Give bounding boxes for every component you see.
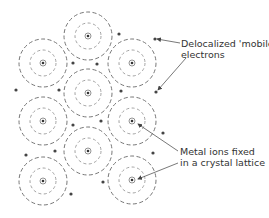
electrons-label-line1: Delocalized 'mobile' (181, 38, 269, 49)
metal-ion (108, 97, 156, 145)
metal-ion (108, 156, 156, 204)
electrons-label: Delocalized 'mobile' electrons (181, 38, 269, 60)
metal-ion (64, 12, 112, 60)
metal-ion (64, 127, 112, 175)
arrow-to-ion-1 (138, 124, 178, 151)
lattice-drawing (0, 0, 269, 218)
electron-dot (119, 89, 122, 92)
metal-ion (19, 39, 67, 87)
nucleus-dot (131, 120, 134, 123)
nucleus-dot (87, 150, 90, 153)
electron-dot (24, 153, 27, 156)
electron-dot (69, 192, 72, 195)
metallic-bonding-diagram: Delocalized 'mobile' electrons Metal ion… (0, 0, 269, 218)
arrow-to-electron-2 (158, 58, 186, 90)
arrow-to-electron-1 (157, 39, 180, 43)
metal-ion (64, 69, 112, 117)
electron-dot (101, 180, 104, 183)
electron-dot (151, 151, 154, 154)
electron-dot (153, 37, 156, 40)
ions-label-line2: in a crystal lattice (180, 157, 265, 168)
metal-ion (19, 157, 67, 205)
nucleus-dot (42, 180, 45, 183)
electron-dot (53, 149, 56, 152)
electron-dot (95, 62, 98, 65)
electron-dot (14, 88, 17, 91)
electron-dot (57, 88, 60, 91)
ions-label: Metal ions fixed in a crystal lattice (180, 146, 265, 168)
electron-dot (71, 123, 74, 126)
metal-ion (19, 97, 67, 145)
electron-dot (117, 32, 120, 35)
nucleus-dot (131, 179, 134, 182)
metal-ions (19, 12, 156, 205)
electron-dot (161, 131, 164, 134)
ions-label-line1: Metal ions fixed (180, 146, 265, 157)
arrow-to-ion-2 (138, 163, 178, 179)
annotation-arrows (138, 39, 186, 179)
nucleus-dot (87, 35, 90, 38)
nucleus-dot (131, 62, 134, 65)
electron-dot (99, 119, 102, 122)
nucleus-dot (42, 62, 45, 65)
nucleus-dot (42, 120, 45, 123)
metal-ion (108, 39, 156, 87)
electrons-label-line2: electrons (181, 49, 269, 60)
electron-dot (154, 90, 157, 93)
nucleus-dot (87, 92, 90, 95)
electron-dot (71, 61, 74, 64)
